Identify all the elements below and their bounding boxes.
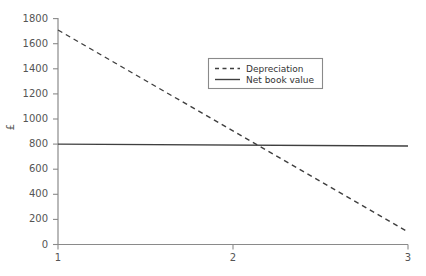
plot-area bbox=[0, 0, 426, 276]
legend-label-net-book-value: Net book value bbox=[246, 75, 314, 84]
y-tick-label-800: 800 bbox=[6, 139, 48, 149]
y-axis-label: £ bbox=[6, 124, 16, 130]
y-tick-label-1800: 1800 bbox=[6, 14, 48, 24]
y-tick-label-1400: 1400 bbox=[6, 64, 48, 74]
legend-label-depreciation: Depreciation bbox=[246, 64, 303, 73]
chart-container: 0 200 400 600 800 1000 1200 1400 1600 18… bbox=[0, 0, 426, 276]
x-tick-label-1: 1 bbox=[55, 253, 61, 263]
y-tick-label-1200: 1200 bbox=[6, 89, 48, 99]
y-tick-label-1000: 1000 bbox=[6, 114, 48, 124]
y-tick-label-0: 0 bbox=[6, 240, 48, 250]
x-tick-marks bbox=[58, 245, 408, 250]
y-tick-label-1600: 1600 bbox=[6, 39, 48, 49]
series-line-net-book-value bbox=[58, 144, 408, 146]
x-tick-label-2: 2 bbox=[230, 253, 236, 263]
y-tick-label-600: 600 bbox=[6, 164, 48, 174]
y-tick-label-200: 200 bbox=[6, 214, 48, 224]
x-tick-label-3: 3 bbox=[405, 253, 411, 263]
y-tick-marks bbox=[53, 19, 58, 245]
y-tick-label-400: 400 bbox=[6, 189, 48, 199]
